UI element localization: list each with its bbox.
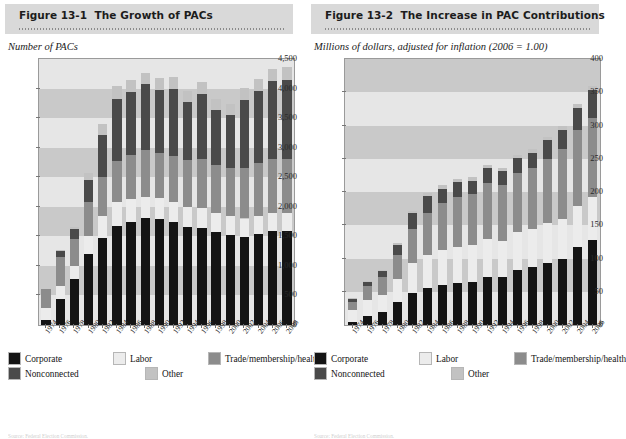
- y-axis-tick-label: 1,500: [274, 230, 297, 240]
- bar-segment-trade-membership-health: [438, 203, 448, 250]
- bar-segment-nonconnected: [70, 229, 79, 239]
- bar-segment-nonconnected: [393, 245, 403, 255]
- bar-1990: [155, 59, 164, 325]
- bar-segment-corporate: [183, 227, 192, 325]
- legend-left: CorporateLaborTrade/membership/healthNon…: [8, 352, 296, 382]
- bar-segment-corporate: [282, 231, 291, 325]
- bar-segment-other: [528, 149, 538, 152]
- y-axis-tick-label: 2,000: [274, 201, 297, 211]
- figure-number-right: Figure 13-2: [325, 9, 393, 21]
- bar-segment-other: [98, 124, 107, 134]
- bar-segment-nonconnected: [423, 196, 433, 213]
- bar-1976: [56, 59, 65, 325]
- legend-swatch: [145, 367, 158, 380]
- bar-segment-corporate: [438, 285, 448, 325]
- legend-item-trade-membership-health: Trade/membership/health: [514, 352, 626, 365]
- bar-segment-labor: [84, 236, 93, 254]
- y-axis-tick-label: 4,000: [274, 83, 297, 93]
- legend-item-labor: Labor: [419, 352, 458, 365]
- bar-segment-labor: [240, 219, 249, 237]
- bar-segment-nonconnected: [468, 181, 478, 194]
- bar-segment-labor: [268, 213, 277, 231]
- bar-segment-nonconnected: [254, 91, 263, 163]
- y-axis-tick-label: 1,000: [274, 260, 297, 270]
- bar-segment-other: [254, 79, 263, 91]
- legend-row: NonconnectedOther: [8, 367, 296, 382]
- bar-1984: [112, 59, 121, 325]
- legend-row: NonconnectedOther: [314, 367, 602, 382]
- bar-segment-nonconnected: [141, 84, 150, 150]
- legend-swatch: [314, 352, 327, 365]
- bar-segment-trade-membership-health: [363, 286, 373, 300]
- y-axis-tick-mark: [36, 176, 40, 177]
- bar-segment-trade-membership-health: [348, 302, 358, 310]
- source-note-left: Source: Federal Election Commission.: [8, 433, 298, 439]
- bar-segment-corporate: [211, 232, 220, 325]
- plot-area: [38, 58, 295, 326]
- bar-segment-trade-membership-health: [468, 194, 478, 245]
- bar-segment-other: [513, 155, 523, 158]
- bar-segment-trade-membership-health: [558, 149, 568, 218]
- bar-segment-nonconnected: [483, 168, 493, 183]
- bar-segment-other: [363, 281, 373, 282]
- legend-swatch: [514, 352, 527, 365]
- y-axis-tick-mark: [36, 206, 40, 207]
- figure-panel-right: Figure 13-2 The Increase in PAC Contribu…: [306, 0, 602, 439]
- figure-title-left: The Growth of PACs: [95, 9, 213, 21]
- legend-item-nonconnected: Nonconnected: [314, 367, 385, 380]
- bar-segment-labor: [254, 216, 263, 234]
- legend-label: Labor: [130, 354, 152, 364]
- bar-segment-corporate: [126, 222, 135, 325]
- legend-item-trade-membership-health: Trade/membership/health: [208, 352, 320, 365]
- bar-segment-other: [70, 227, 79, 229]
- bar-segment-nonconnected: [513, 158, 523, 173]
- bar-segment-labor: [141, 197, 150, 218]
- legend-swatch: [419, 352, 432, 365]
- legend-row: CorporateLaborTrade/membership/health: [8, 352, 296, 367]
- bar-2006: [268, 59, 277, 325]
- bar-segment-trade-membership-health: [498, 185, 508, 241]
- bar-segment-corporate: [423, 288, 433, 325]
- legend-swatch: [208, 352, 221, 365]
- bar-segment-other: [558, 126, 568, 130]
- bar-1994: [498, 59, 508, 325]
- bar-segment-labor: [453, 247, 463, 283]
- bar-segment-corporate: [112, 226, 121, 325]
- bar-segment-trade-membership-health: [513, 173, 523, 232]
- legend-label: Other: [468, 369, 489, 379]
- legend-label: Trade/membership/health: [531, 354, 626, 364]
- bar-segment-other: [573, 104, 583, 108]
- bar-segment-labor: [211, 213, 220, 232]
- bar-segment-nonconnected: [169, 89, 178, 157]
- bar-segment-labor: [98, 216, 107, 238]
- bar-segment-trade-membership-health: [98, 177, 107, 215]
- bar-segment-nonconnected: [348, 299, 358, 302]
- bar-1974: [348, 59, 358, 325]
- bar-segment-labor: [197, 208, 206, 228]
- bar-segment-trade-membership-health: [226, 168, 235, 216]
- figure-header-left: Figure 13-1 The Growth of PACs: [5, 4, 293, 34]
- bar-segment-nonconnected: [543, 140, 553, 159]
- bar-segment-corporate: [226, 235, 235, 325]
- bar-segment-other: [453, 179, 463, 182]
- y-axis-tick-label: 300: [580, 120, 603, 130]
- bar-segment-corporate: [155, 219, 164, 325]
- bar-segment-nonconnected: [498, 171, 508, 184]
- bar-segment-corporate: [268, 231, 277, 325]
- y-axis-tick-label: 200: [580, 186, 603, 196]
- bar-2002: [240, 59, 249, 325]
- bar-segment-other: [423, 193, 433, 196]
- bar-segment-trade-membership-health: [126, 155, 135, 199]
- bar-segment-labor: [378, 295, 388, 312]
- legend-item-labor: Labor: [113, 352, 152, 365]
- bar-segment-trade-membership-health: [197, 159, 206, 209]
- bar-segment-labor: [56, 286, 65, 299]
- bar-segment-other: [348, 298, 358, 299]
- bar-1996: [197, 59, 206, 325]
- y-axis-tick-mark: [36, 147, 40, 148]
- bar-2008: [282, 59, 291, 325]
- bar-segment-trade-membership-health: [408, 229, 418, 264]
- legend-swatch: [314, 367, 327, 380]
- bar-1978: [70, 59, 79, 325]
